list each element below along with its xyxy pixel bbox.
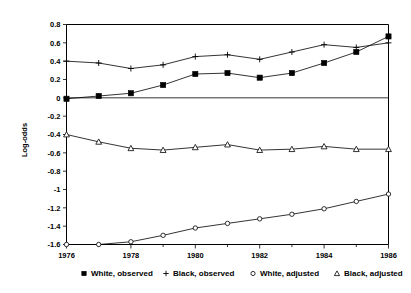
data-point-plus [321,42,327,48]
log-odds-line-chart: 0.80.60.40.20-0.2-0.4-0.6-0.8-1-1.2-1.4-… [0,0,411,293]
legend-marker-plus [163,271,168,276]
x-tick-label: 1986 [380,251,397,260]
legend-item-black-observed[interactable]: Black, observed [163,269,234,278]
legend-label: Black, observed [173,269,234,278]
y-axis-title: Log-odds [20,123,29,157]
legend-item-white-observed[interactable]: White, observed [82,269,153,278]
data-point-filled-square [96,93,101,98]
legend-marker-open-triangle [334,271,339,276]
y-axis-tick-labels: 0.80.60.40.20-0.2-0.4-0.6-0.8-1-1.2-1.4-… [48,20,62,249]
data-point-filled-square [386,34,391,39]
y-tick-label: -1 [54,185,61,194]
chart-legend: White, observedBlack, observedWhite, adj… [82,269,403,278]
x-axis-ticks [67,245,389,249]
legend-item-white-adjusted[interactable]: White, adjusted [251,269,319,278]
data-point-open-circle [354,199,358,203]
series-white-observed [64,34,391,102]
data-point-open-circle [193,226,197,230]
data-point-filled-square [225,70,230,75]
legend-marker-filled-square [82,271,86,275]
data-point-filled-square [257,75,262,80]
data-point-plus [192,54,198,60]
y-tick-label: -1.4 [48,222,62,231]
y-tick-label: -1.2 [48,204,61,213]
data-point-plus [225,52,231,58]
data-point-open-circle [129,240,133,244]
data-point-plus [289,49,295,55]
series-line [67,194,389,244]
series-white-adjusted [64,192,390,247]
legend-item-black-adjusted[interactable]: Black, adjusted [334,269,402,278]
data-point-open-triangle [321,144,327,149]
data-point-open-circle [97,242,101,246]
y-tick-label: 0 [56,94,60,103]
x-tick-label: 1976 [58,251,75,260]
y-tick-label: 0.2 [50,75,60,84]
legend-label: Black, adjusted [344,269,403,278]
y-tick-label: 0.8 [50,20,60,29]
data-point-plus [96,60,102,66]
y-tick-label: -1.6 [48,240,61,249]
data-point-open-triangle [225,142,231,147]
legend-label: White, observed [91,269,153,278]
series-black-observed [64,40,392,72]
data-point-filled-square [289,70,294,75]
data-point-open-circle [225,221,229,225]
chart-container: 0.80.60.40.20-0.2-0.4-0.6-0.8-1-1.2-1.4-… [0,0,411,293]
y-tick-label: -0.4 [48,130,62,139]
y-tick-label: 0.4 [50,57,61,66]
x-axis-tick-labels: 197619781980198219841986 [58,251,397,260]
data-point-plus [257,56,263,62]
legend-label: White, adjusted [260,269,319,278]
x-tick-label: 1982 [251,251,268,260]
x-tick-label: 1984 [316,251,334,260]
data-point-open-circle [290,212,294,216]
y-tick-label: 0.6 [50,39,60,48]
x-tick-label: 1980 [187,251,204,260]
data-series-layer [64,34,392,247]
y-tick-label: -0.8 [48,167,61,176]
y-tick-label: -0.6 [48,149,61,158]
data-point-plus [64,58,70,64]
data-point-filled-square [64,96,69,101]
data-point-plus [160,62,166,68]
data-point-open-circle [322,207,326,211]
legend-marker-open-circle [251,271,255,275]
data-point-plus [128,66,134,72]
data-point-filled-square [322,60,327,65]
data-point-open-circle [64,242,68,246]
data-point-plus [386,40,392,46]
data-point-filled-square [161,82,166,87]
data-point-filled-square [128,91,133,96]
data-point-filled-square [193,71,198,76]
y-tick-label: -0.2 [48,112,61,121]
data-point-open-circle [386,192,390,196]
data-point-open-circle [161,233,165,237]
x-tick-label: 1978 [123,251,140,260]
series-black-adjusted [64,132,392,153]
data-point-open-circle [258,217,262,221]
